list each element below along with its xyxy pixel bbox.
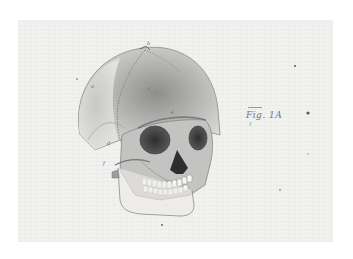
right-orbit bbox=[189, 126, 207, 150]
svg-text:d: d bbox=[107, 140, 110, 146]
skull-illustration: a b c d e f bbox=[0, 0, 353, 259]
svg-text:f: f bbox=[102, 160, 106, 167]
svg-text:c: c bbox=[148, 85, 151, 91]
caption-underline bbox=[248, 107, 262, 108]
caption-text: Fig. 1A bbox=[246, 110, 282, 120]
caption-sub: ℓ bbox=[249, 120, 252, 127]
svg-text:b: b bbox=[147, 40, 150, 46]
left-orbit bbox=[140, 126, 170, 154]
svg-text:e: e bbox=[171, 109, 174, 115]
svg-text:a: a bbox=[91, 83, 94, 89]
figure-caption: Fig. 1A ℓ bbox=[246, 110, 282, 120]
